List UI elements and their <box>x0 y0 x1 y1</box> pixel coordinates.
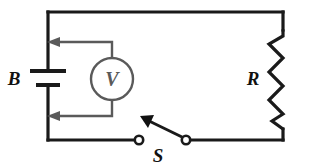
switch-terminal-right[interactable] <box>182 136 190 144</box>
battery-label: B <box>7 68 21 89</box>
circuit-schematic-canvas: B V S R <box>0 0 313 166</box>
resistor-zigzag <box>269 30 283 129</box>
voltmeter-lead-upper <box>53 42 112 58</box>
switch-label: S <box>153 145 164 166</box>
switch-terminal-left[interactable] <box>135 136 143 144</box>
voltmeter-lead-lower <box>53 100 112 116</box>
switch-blade <box>147 120 182 137</box>
resistor-label: R <box>246 68 260 89</box>
voltmeter-label: V <box>105 68 120 90</box>
circuit-diagram: B V S R <box>0 0 313 166</box>
